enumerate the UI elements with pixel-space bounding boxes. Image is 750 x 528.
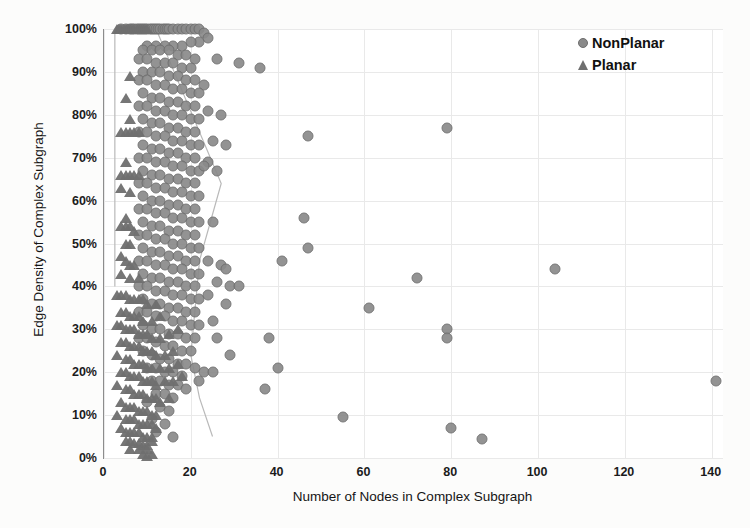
y-tick-label: 80% (51, 108, 97, 122)
data-point-nonplanar (194, 114, 205, 125)
data-point-nonplanar (194, 139, 205, 150)
data-point-nonplanar (203, 289, 214, 300)
triangle-marker-icon (578, 60, 588, 70)
x-tick-label: 40 (270, 465, 284, 479)
data-point-nonplanar (303, 242, 314, 253)
data-point-planar (167, 346, 179, 356)
plot-area (103, 29, 723, 459)
data-point-nonplanar (190, 101, 201, 112)
data-point-nonplanar (276, 255, 287, 266)
legend-item-planar[interactable]: Planar (578, 55, 665, 74)
data-point-nonplanar (476, 433, 487, 444)
data-point-nonplanar (255, 62, 266, 73)
data-point-nonplanar (207, 367, 218, 378)
y-tick-label: 20% (51, 365, 97, 379)
gridline-horizontal (104, 458, 723, 459)
data-point-nonplanar (337, 412, 348, 423)
x-tick-label: 0 (100, 465, 107, 479)
data-point-nonplanar (298, 212, 309, 223)
data-point-nonplanar (207, 135, 218, 146)
y-tick-label: 90% (51, 65, 97, 79)
data-point-planar (128, 226, 140, 236)
data-point-nonplanar (190, 178, 201, 189)
data-point-nonplanar (363, 302, 374, 313)
data-point-nonplanar (194, 191, 205, 202)
data-point-nonplanar (272, 362, 283, 373)
data-point-nonplanar (441, 122, 452, 133)
x-axis-tick-labels: 020406080100120140 (103, 465, 722, 485)
data-point-nonplanar (411, 272, 422, 283)
data-point-nonplanar (194, 320, 205, 331)
x-tick-label: 140 (700, 465, 721, 479)
data-point-planar (120, 157, 132, 167)
data-point-nonplanar (441, 332, 452, 343)
data-point-nonplanar (181, 384, 192, 395)
data-point-nonplanar (220, 139, 231, 150)
data-point-nonplanar (185, 345, 196, 356)
data-point-planar (124, 114, 136, 124)
data-point-nonplanar (194, 268, 205, 279)
data-point-nonplanar (211, 332, 222, 343)
data-point-nonplanar (259, 384, 270, 395)
data-point-planar (120, 93, 132, 103)
data-point-planar (141, 24, 153, 34)
circle-marker-icon (578, 38, 588, 48)
x-tick-label: 60 (356, 465, 370, 479)
y-axis-tick-labels: 0%10%20%30%40%50%60%70%80%90%100% (47, 29, 97, 458)
data-point-nonplanar (190, 126, 201, 137)
x-tick-label: 20 (183, 465, 197, 479)
legend-item-nonplanar[interactable]: NonPlanar (578, 33, 665, 52)
data-point-nonplanar (211, 165, 222, 176)
y-tick-label: 50% (51, 237, 97, 251)
data-point-nonplanar (207, 315, 218, 326)
data-point-planar (124, 239, 136, 249)
data-point-nonplanar (190, 281, 201, 292)
legend: NonPlanar Planar (578, 33, 665, 74)
data-point-nonplanar (190, 255, 201, 266)
data-point-planar (124, 187, 136, 197)
x-tick-label: 100 (527, 465, 548, 479)
data-point-nonplanar (216, 109, 227, 120)
data-point-nonplanar (303, 131, 314, 142)
data-point-nonplanar (190, 204, 201, 215)
x-tick-label: 120 (613, 465, 634, 479)
data-point-nonplanar (190, 307, 201, 318)
data-point-nonplanar (194, 217, 205, 228)
data-point-nonplanar (233, 58, 244, 69)
data-point-planar (133, 273, 145, 283)
data-point-nonplanar (207, 217, 218, 228)
data-point-nonplanar (190, 229, 201, 240)
data-point-nonplanar (194, 88, 205, 99)
y-tick-label: 40% (51, 279, 97, 293)
data-point-nonplanar (263, 332, 274, 343)
data-point-nonplanar (233, 281, 244, 292)
data-markers (104, 29, 723, 458)
data-point-planar (172, 359, 184, 369)
y-tick-label: 0% (51, 451, 97, 465)
data-point-planar (124, 71, 136, 81)
data-point-nonplanar (194, 242, 205, 253)
y-tick-label: 30% (51, 322, 97, 336)
data-point-nonplanar (203, 105, 214, 116)
y-axis-title: Edge Density of Complex Subgraph (31, 40, 46, 420)
data-point-nonplanar (220, 298, 231, 309)
data-point-planar (163, 393, 175, 403)
data-point-nonplanar (168, 431, 179, 442)
legend-label: Planar (592, 57, 636, 73)
data-point-planar (141, 451, 153, 461)
data-point-nonplanar (211, 277, 222, 288)
data-point-planar (133, 170, 145, 180)
chart-page: Edge Density of Complex Subgraph 0%10%20… (0, 0, 750, 528)
data-point-nonplanar (220, 264, 231, 275)
data-point-nonplanar (211, 54, 222, 65)
data-point-planar (133, 127, 145, 137)
data-point-planar (128, 260, 140, 270)
data-point-nonplanar (550, 264, 561, 275)
data-point-nonplanar (190, 332, 201, 343)
data-point-nonplanar (224, 350, 235, 361)
x-axis-title: Number of Nodes in Complex Subgraph (103, 489, 722, 504)
y-tick-label: 10% (51, 408, 97, 422)
data-point-planar (150, 299, 162, 309)
x-tick-label: 80 (443, 465, 457, 479)
data-point-nonplanar (446, 422, 457, 433)
